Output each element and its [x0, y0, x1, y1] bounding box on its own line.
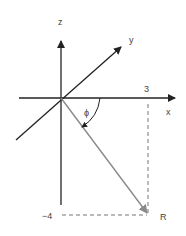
y-axis	[16, 47, 121, 140]
angle-phi-label: ϕ	[84, 108, 89, 118]
coordinate-diagram: z y x 3 −4 ϕ R	[0, 0, 186, 236]
point-r-label: R	[160, 212, 167, 222]
x-tick-label: 3	[144, 84, 149, 94]
z-tick-label: −4	[42, 211, 52, 221]
y-axis-label: y	[129, 35, 134, 45]
x-axis-label: x	[166, 107, 171, 117]
z-axis-label: z	[58, 17, 63, 27]
vector-r	[61, 98, 147, 213]
